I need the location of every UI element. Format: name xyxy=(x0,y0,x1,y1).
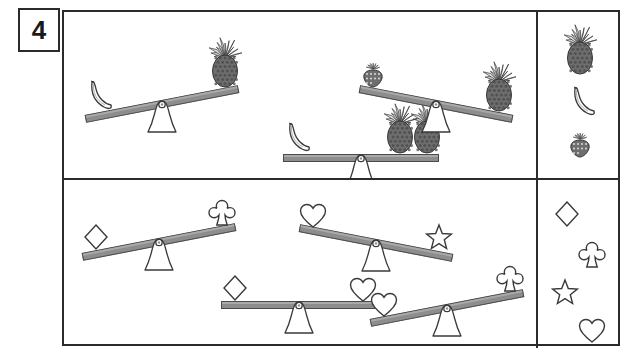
club-icon xyxy=(209,199,235,227)
banana-icon xyxy=(283,121,311,155)
worksheet-frame xyxy=(62,10,620,346)
shape-work-area xyxy=(64,180,538,348)
fulcrum-icon xyxy=(145,98,179,136)
fruit-legend xyxy=(540,12,620,178)
legend-strawberry xyxy=(569,133,591,159)
bottom-panel-shapes xyxy=(64,180,618,348)
fulcrum-icon xyxy=(430,302,464,340)
legend-banana xyxy=(568,85,596,119)
pineapple-icon xyxy=(383,103,417,155)
heart-icon xyxy=(299,203,327,228)
pineapple-icon xyxy=(482,61,516,113)
fulcrum-icon xyxy=(419,98,453,136)
legend-club xyxy=(579,241,605,269)
strawberry-icon xyxy=(362,63,384,89)
club-icon xyxy=(497,265,523,293)
fulcrum-icon xyxy=(359,237,393,275)
fulcrum-icon xyxy=(344,152,378,178)
diamond-icon xyxy=(83,223,109,251)
star-icon xyxy=(425,224,453,252)
fulcrum-icon xyxy=(282,299,316,337)
banana-icon xyxy=(85,79,113,113)
legend-heart xyxy=(578,318,606,343)
shape-legend xyxy=(540,180,620,348)
legend-pineapple xyxy=(563,24,597,76)
fulcrum-icon xyxy=(142,236,176,274)
worksheet-page: 4 xyxy=(0,0,634,361)
fruit-work-area xyxy=(64,12,538,178)
legend-star xyxy=(551,279,579,307)
problem-number-badge: 4 xyxy=(18,8,60,52)
heart-icon xyxy=(370,292,398,317)
top-panel-fruits xyxy=(64,12,618,180)
pineapple-icon xyxy=(208,37,242,89)
legend-diamond xyxy=(554,200,580,228)
diamond-icon xyxy=(222,274,248,302)
